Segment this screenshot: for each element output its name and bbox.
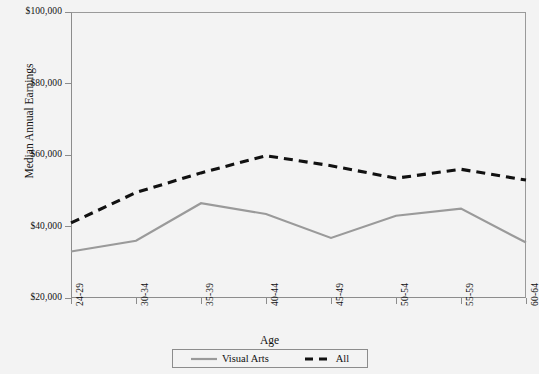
legend-entry-all: All: [305, 353, 349, 364]
series-line-visual-arts: [71, 203, 526, 251]
line-chart: Median Annual Earnings $20,000$40,000$60…: [0, 0, 539, 374]
legend-label: Visual Arts: [222, 353, 269, 364]
y-axis-tick-label: $80,000: [0, 79, 62, 89]
y-axis-tick-label: $40,000: [0, 222, 62, 232]
x-axis-tick-label: 50-54: [400, 283, 410, 306]
x-axis-tick-label: 30-34: [140, 283, 150, 306]
legend-entry-visual-arts: Visual Arts: [191, 353, 269, 364]
x-axis-tick-label: 40-44: [270, 283, 280, 306]
y-axis-title: Median Annual Earnings: [23, 21, 35, 221]
x-axis-tick-label: 45-49: [335, 283, 345, 306]
y-axis-tick-label: $20,000: [0, 293, 62, 303]
x-axis-tick-mark: [461, 298, 462, 304]
x-axis-tick-mark: [201, 298, 202, 304]
x-axis-tick-label: 55-59: [465, 283, 475, 306]
series-layer: [71, 12, 526, 298]
chart-legend: Visual ArtsAll: [172, 349, 368, 368]
x-axis-title: Age: [0, 334, 539, 346]
x-axis-tick-mark: [71, 298, 72, 304]
x-axis-tick-label: 35-39: [205, 283, 215, 306]
y-axis-tick-label: $100,000: [0, 7, 62, 17]
x-axis-tick-mark: [396, 298, 397, 304]
y-axis-tick-label: $60,000: [0, 150, 62, 160]
legend-label: All: [336, 353, 349, 364]
x-axis-tick-mark: [136, 298, 137, 304]
legend-swatch-icon: [191, 354, 217, 364]
x-axis-tick-label: 24-29: [75, 283, 85, 306]
x-axis-tick-mark: [331, 298, 332, 304]
x-axis-tick-mark: [266, 298, 267, 304]
series-line-all: [71, 156, 526, 223]
legend-swatch-icon: [305, 354, 331, 364]
x-axis-tick-mark: [526, 298, 527, 304]
x-axis-tick-label: 60-64: [530, 283, 539, 306]
